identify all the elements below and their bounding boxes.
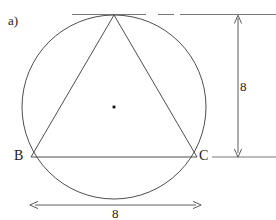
circle-center-dot	[113, 106, 116, 109]
geometry-figure	[0, 0, 276, 220]
part-label: a)	[8, 14, 18, 27]
vertex-label-c: C	[199, 149, 208, 163]
inscribed-triangle	[31, 15, 197, 157]
vertex-label-b: B	[14, 149, 23, 163]
height-dimension-label: 8	[240, 80, 247, 93]
diagram-canvas: a) B C 8 8	[0, 0, 276, 220]
width-dimension-label: 8	[112, 207, 119, 220]
